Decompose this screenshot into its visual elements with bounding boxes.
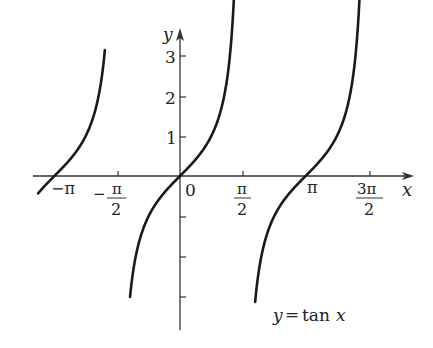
x-tick-label-pi: π [307,178,318,197]
annotation-y: y [272,305,283,325]
x-tick-label-pi-half-den: 2 [237,200,247,219]
tan-branch-2 [255,0,359,302]
tan-curves [38,0,359,302]
tan-branch-0 [38,50,105,193]
annotation-x: x [336,305,346,325]
x-tick-label-neg-pi: −π [51,179,75,198]
annotation-tan: tan [302,305,330,325]
x-tick-label-pi-half-num: π [237,180,247,198]
annotation-eq: = [285,304,299,324]
y-tick-label-2: 2 [165,88,176,108]
x-axis-label: x [402,179,412,200]
y-axis-label: y [162,24,173,44]
tan-branch-1 [130,0,235,297]
origin-label: 0 [185,180,196,200]
x-tick-label-neg-pi-half-num: π [112,180,122,198]
tan-graph: y x 3 2 1 0 −π − π 2 π 2 π 3π 2 y = tan … [0,0,433,348]
y-tick-label-3: 3 [165,47,176,67]
y-tick-label-1: 1 [166,128,177,148]
x-tick-label-neg-pi-half-sign: − [93,185,106,203]
x-ticks [118,171,370,176]
x-tick-label-3pi-half-den: 2 [364,200,374,219]
x-tick-label-3pi-half-num: 3π [357,180,377,198]
x-tick-label-neg-pi-half-den: 2 [111,200,121,219]
